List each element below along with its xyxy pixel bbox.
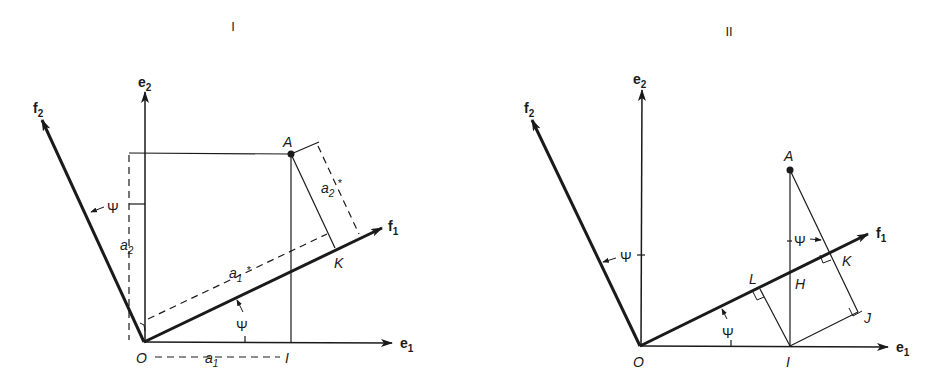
a2-level-line — [129, 153, 291, 154]
psi-bottom-label: Ψ — [722, 325, 734, 341]
point-J-label: J — [863, 310, 872, 326]
e2-label: e2 — [633, 71, 647, 90]
point-A-dot — [288, 151, 295, 158]
psi-bottom-arrow — [722, 309, 727, 319]
point-A-dot — [787, 167, 794, 174]
I-to-J-line — [790, 312, 858, 346]
psi-left-arrow — [91, 207, 104, 212]
f1-label: f1 — [388, 218, 399, 237]
diagram-canvas: I e2 — [0, 0, 943, 380]
a2-label: a2 — [120, 237, 134, 256]
a2-star-label: a2* — [321, 177, 342, 199]
right-angle-J — [849, 308, 862, 316]
psi-left-arrow — [603, 258, 616, 262]
f2-label: f2 — [33, 100, 44, 119]
f1-axis-arrow — [640, 234, 868, 346]
a1-star-label: a1* — [229, 264, 251, 284]
panel-II-title: II — [725, 24, 732, 39]
f1-label: f1 — [876, 225, 887, 244]
psi-left-label: Ψ — [620, 249, 632, 265]
f2-label: f2 — [524, 100, 535, 119]
point-O-label: O — [633, 354, 644, 370]
e1-axis-arrow — [144, 342, 392, 343]
e1-label: e1 — [896, 339, 910, 358]
panel-I-title: I — [231, 19, 235, 34]
I-to-L-line — [760, 289, 790, 346]
e2-label: e2 — [138, 74, 152, 93]
point-K-label: K — [334, 255, 344, 271]
f1-axis-arrow — [144, 228, 382, 342]
psi-top-arrow — [810, 239, 821, 240]
point-O-label: O — [136, 350, 147, 366]
point-I-label: I — [285, 350, 289, 366]
a2-star-extension — [291, 142, 319, 154]
psi-left-label: Ψ — [107, 200, 119, 216]
psi-bottom-arrow — [237, 300, 243, 312]
point-H-label: H — [795, 276, 806, 292]
e1-label: e1 — [400, 335, 414, 354]
point-A-label: A — [783, 148, 793, 164]
f2-axis-arrow — [532, 120, 640, 346]
point-K-label: K — [842, 253, 852, 269]
a1-label: a1 — [205, 350, 218, 369]
psi-bottom-label: Ψ — [236, 318, 248, 334]
e2-axis-arrow — [641, 90, 642, 346]
panel-II: II e2 f2 f1 e1 A O — [524, 24, 910, 370]
panel-I: I e2 — [33, 19, 414, 369]
e1-axis-arrow — [640, 346, 888, 347]
point-L-label: L — [749, 271, 757, 287]
psi-top-label: Ψ — [794, 233, 806, 249]
point-I-label: I — [786, 354, 790, 370]
point-A-label: A — [282, 134, 292, 150]
